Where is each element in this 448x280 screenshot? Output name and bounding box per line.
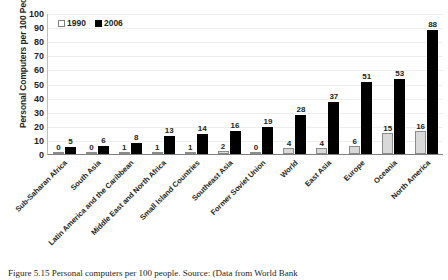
figure-caption: Figure 5.15 Personal computers per 100 p… (8, 268, 442, 279)
y-axis-tick: 70 (18, 52, 44, 61)
bar-value-label: 6 (101, 137, 105, 145)
x-axis-category: Europe (344, 156, 377, 256)
bar-group: 651 (344, 13, 377, 154)
y-axis-tick: 10 (18, 136, 44, 145)
y-axis-tick: 100 (18, 10, 44, 19)
bar-group: 18 (114, 13, 147, 154)
bar-1990: 4 (316, 148, 327, 154)
x-axis-category-label: Europe (342, 159, 366, 183)
bar-2006: 14 (197, 134, 208, 154)
bar-1990: 1 (152, 152, 163, 154)
y-axis-tick-labels: 1009080706050403020100 (18, 14, 44, 155)
bar-value-label: 4 (320, 140, 324, 148)
bar-value-label: 0 (254, 144, 258, 152)
bar-1990: 1 (185, 152, 196, 154)
x-axis-category-label: Sub-Saharan Africa (14, 159, 68, 213)
bar-1990: 1 (119, 152, 130, 154)
bar-group: 06 (81, 13, 114, 154)
bar-group: 05 (48, 13, 81, 154)
bar-1990: 15 (382, 133, 393, 154)
bar-2006: 8 (131, 143, 142, 154)
bar-group: 1688 (410, 13, 443, 154)
bar-group: 428 (278, 13, 311, 154)
bar-2006: 5 (65, 147, 76, 154)
y-axis-tick: 60 (18, 66, 44, 75)
bar-value-label: 53 (395, 70, 404, 78)
bar-value-label: 0 (89, 144, 93, 152)
y-axis-tick: 50 (18, 80, 44, 89)
bar-2006: 6 (98, 146, 109, 154)
bar-value-label: 16 (231, 122, 240, 130)
x-axis-category: Former Soviet Union (245, 156, 278, 256)
bar-1990: 0 (250, 152, 261, 154)
bar-value-label: 8 (134, 134, 138, 142)
bar-1990: 2 (218, 151, 229, 154)
y-axis-tick: 80 (18, 38, 44, 47)
bar-2006: 88 (427, 30, 438, 154)
bar-value-label: 1 (188, 144, 192, 152)
x-axis-category: East Asia (311, 156, 344, 256)
y-axis-tick: 30 (18, 108, 44, 117)
bar-2006: 13 (164, 136, 175, 154)
bar-value-label: 51 (362, 73, 371, 81)
bar-value-label: 15 (383, 125, 392, 133)
y-axis-tick: 90 (18, 24, 44, 33)
bar-1990: 0 (53, 152, 64, 154)
bar-1990: 4 (283, 148, 294, 154)
bar-value-label: 5 (68, 138, 72, 146)
plot-area: 1990 2006 050618113114216019428437651155… (47, 14, 443, 155)
bar-value-label: 28 (296, 106, 305, 114)
x-axis-category: Oceania (377, 156, 410, 256)
bar-value-label: 1 (122, 144, 126, 152)
bar-2006: 19 (262, 127, 273, 154)
bar-value-label: 13 (165, 127, 174, 135)
bar-value-label: 37 (329, 93, 338, 101)
x-axis-category: World (278, 156, 311, 256)
bar-value-label: 88 (428, 21, 437, 29)
bar-1990: 6 (349, 146, 360, 154)
bar-group: 437 (311, 13, 344, 154)
bar-value-label: 14 (198, 125, 207, 133)
bar-group: 114 (180, 13, 213, 154)
x-axis-category-label: World (280, 159, 300, 179)
bar-2006: 28 (295, 115, 306, 154)
bar-value-label: 6 (353, 138, 357, 146)
bar-2006: 53 (394, 79, 405, 154)
x-axis-category-label: Oceania (373, 159, 399, 185)
bar-1990: 16 (415, 131, 426, 154)
bar-value-label: 1 (155, 144, 159, 152)
bar-group: 113 (147, 13, 180, 154)
bar-group: 019 (246, 13, 279, 154)
y-axis-tick: 40 (18, 94, 44, 103)
bar-2006: 16 (230, 131, 241, 154)
bar-value-label: 2 (221, 143, 225, 151)
bar-2006: 51 (361, 82, 372, 154)
y-axis-tick: 20 (18, 122, 44, 131)
y-axis-tick: 0 (18, 151, 44, 160)
figure-container: Personal Computers per 100 People 100908… (0, 0, 448, 280)
x-axis-category: North America (410, 156, 443, 256)
bar-2006: 37 (328, 102, 339, 154)
bar-group: 1553 (377, 13, 410, 154)
x-axis-category: Small Island Countries (179, 156, 212, 256)
bar-1990: 0 (86, 152, 97, 154)
bar-group: 216 (213, 13, 246, 154)
bar-value-label: 4 (287, 140, 291, 148)
bar-value-label: 0 (56, 144, 60, 152)
bar-value-label: 16 (416, 123, 425, 131)
bar-groups: 05061811311421601942843765115531688 (48, 13, 443, 154)
bar-value-label: 19 (264, 118, 273, 126)
x-axis-category-labels: Sub-Saharan AfricaSouth AsiaLatin Americ… (47, 156, 443, 256)
